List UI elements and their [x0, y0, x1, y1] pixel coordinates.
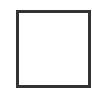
empty-checkbox-frame[interactable] — [16, 10, 91, 88]
